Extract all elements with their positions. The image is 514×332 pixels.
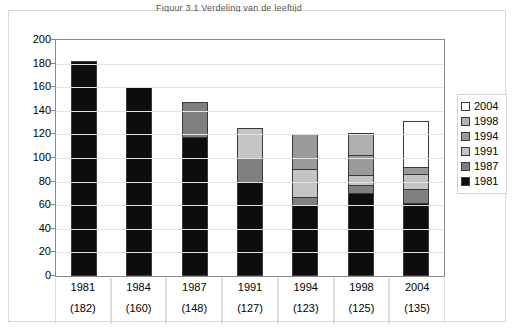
x-axis-total-label: (182) [70,302,96,315]
x-axis-label-table: 1981(182)1984(160)1987(148)1991(127)1994… [55,278,445,324]
chart-screenshot: Figuur 3.1 Verdeling van de leeftijd 200… [0,0,514,332]
gridline [56,134,444,135]
x-axis-cell: 2004(135) [389,278,445,324]
legend-item-label: 1998 [474,116,498,127]
gridline [56,205,444,206]
x-axis-cell: 1998(125) [334,278,390,324]
x-axis-total-label: (125) [349,302,375,315]
bar-segment [292,205,318,276]
x-axis-cell: 1984(160) [111,278,167,324]
legend-item-label: 1987 [474,161,498,172]
x-axis-cell: 1994(123) [278,278,334,324]
x-axis-year-label: 1991 [238,281,262,294]
bar-segment [182,102,208,137]
x-axis-total-label: (127) [237,302,263,315]
gridline [56,252,444,253]
legend-swatch-icon [461,117,470,126]
gridline [56,229,444,230]
bar-segment [292,169,318,197]
gridline [56,87,444,88]
y-axis-tick-label: 20 [11,246,51,257]
legend-swatch-icon [461,102,470,111]
x-axis-total-label: (123) [293,302,319,315]
stacked-bar [237,128,263,276]
x-axis-year-label: 1998 [349,281,373,294]
bar-segment [403,121,429,168]
legend-swatch-icon [461,162,470,171]
x-axis-cell: 1991(127) [222,278,278,324]
stacked-bar [182,102,208,276]
y-axis-tick-label: 200 [11,34,51,45]
x-axis-year-label: 2004 [405,281,429,294]
x-axis-total-label: (135) [404,302,430,315]
y-axis-tick-label: 180 [11,58,51,69]
legend-swatch-icon [461,132,470,141]
bar-segment [403,189,429,204]
x-axis-total-label: (148) [181,302,207,315]
gridline [56,182,444,183]
y-axis-tick-label: 160 [11,81,51,92]
x-axis-year-label: 1994 [293,281,317,294]
legend-item-label: 1981 [474,176,498,187]
y-axis-tick-label: 120 [11,128,51,139]
legend-item[interactable]: 1991 [461,144,503,159]
gridline [56,64,444,65]
legend-item-label: 2004 [474,101,498,112]
x-axis-cell: 1981(182) [55,278,111,324]
legend-item[interactable]: 1998 [461,114,503,129]
x-axis-cell: 1987(148) [166,278,222,324]
x-axis-year-label: 1987 [182,281,206,294]
y-axis-tick-label: 40 [11,223,51,234]
y-axis-tick-label: 60 [11,199,51,210]
y-axis-tick-label: 100 [11,152,51,163]
chart-title: Figuur 3.1 Verdeling van de leeftijd [9,3,449,12]
legend-swatch-icon [461,147,470,156]
y-axis-labels: 200180160140120100806040200 [9,33,51,283]
chart-frame: Figuur 3.1 Verdeling van de leeftijd 200… [8,10,506,322]
legend-item[interactable]: 2004 [461,99,503,114]
legend-item[interactable]: 1987 [461,159,503,174]
bar-segment [348,133,374,157]
x-axis-total-label: (160) [126,302,152,315]
x-axis-year-label: 1984 [126,281,150,294]
bar-segment [237,158,263,183]
legend-item[interactable]: 1981 [461,174,503,189]
plot-area [55,39,445,277]
legend-item-label: 1994 [474,131,498,142]
chart-legend: 200419981994199119871981 [457,94,507,194]
gridline [56,111,444,112]
legend-swatch-icon [461,177,470,186]
bar-segment [403,203,429,276]
legend-item[interactable]: 1994 [461,129,503,144]
y-axis-tick-label: 80 [11,176,51,187]
y-axis-tick-label: 0 [11,270,51,281]
stacked-bar [71,61,97,276]
bar-segment [71,61,97,276]
x-axis-year-label: 1981 [71,281,95,294]
legend-item-label: 1991 [474,146,498,157]
y-axis-tick-label: 140 [11,105,51,116]
bar-segment [292,134,318,171]
gridline [56,158,444,159]
bar-segment [237,128,263,159]
